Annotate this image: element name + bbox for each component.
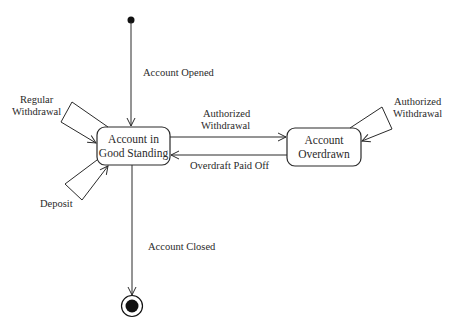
state-good-standing-line1: Account in [108, 133, 159, 145]
state-overdrawn-line2: Overdrawn [298, 148, 350, 160]
label-authorized-withdrawal-line2: Withdrawal [201, 120, 250, 131]
label-regular-withdrawal-line1: Regular [20, 94, 54, 105]
label-account-opened: Account Opened [143, 67, 215, 78]
label-account-closed: Account Closed [148, 241, 216, 252]
state-diagram: Account Opened Account in Good Standing … [0, 0, 452, 332]
label-overdraft-paid-off: Overdraft Paid Off [190, 160, 270, 171]
label-authorized-withdrawal-line1: Authorized [203, 108, 251, 119]
transition-deposit [65, 160, 108, 200]
final-state-inner [126, 300, 139, 313]
label-regular-withdrawal-line2: Withdrawal [12, 106, 61, 117]
label-deposit: Deposit [40, 198, 73, 209]
state-overdrawn-line1: Account [305, 134, 345, 146]
label-authorized-withdrawal-self-line2: Withdrawal [393, 108, 442, 119]
state-good-standing-line2: Good Standing [99, 147, 169, 160]
label-authorized-withdrawal-self-line1: Authorized [394, 96, 442, 107]
